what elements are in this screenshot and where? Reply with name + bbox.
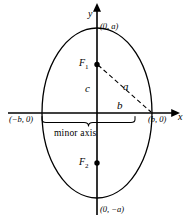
minor-axis-brace [42,117,135,127]
bottom-vertex-label: (0, −a) [100,205,124,214]
focus-2-dot [94,160,99,165]
segment-c-label: c [85,83,90,94]
focus-1-dot [94,62,99,67]
focus-1-subscript: 1 [85,63,89,71]
minor-axis-label: minor axis [54,129,96,139]
top-vertex-label: (0, a) [100,22,118,31]
left-covertex-label: (−b, 0) [9,115,33,124]
segment-a-label: a [123,81,129,92]
focus-1-label: F1 [79,58,89,71]
figure-canvas [0,0,187,223]
focus-2-label: F2 [79,157,89,170]
x-axis-label: x [178,112,182,122]
y-axis-label: y [88,9,92,19]
focus-2-subscript: 2 [85,162,89,170]
right-covertex-label: (b, 0) [148,115,166,124]
segment-b-label: b [117,100,123,111]
ellipse-figure: y x (0, a) (0, −a) (−b, 0) (b, 0) F1 F2 … [0,0,187,223]
